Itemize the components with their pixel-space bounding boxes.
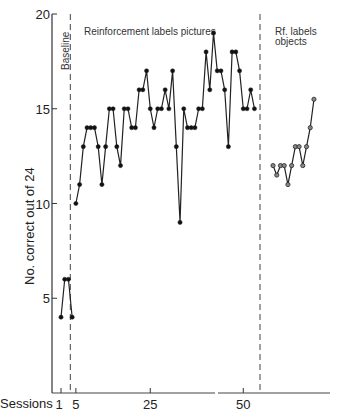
data-point-marker bbox=[286, 182, 290, 186]
x-tick-label: 50 bbox=[236, 397, 250, 412]
data-point-marker bbox=[111, 107, 115, 111]
data-point-marker bbox=[204, 50, 208, 54]
data-point-marker bbox=[66, 277, 70, 281]
data-point-marker bbox=[92, 126, 96, 130]
data-point-marker bbox=[174, 145, 178, 149]
phase-label-reinforcement-pictures: Reinforcement labels pictures bbox=[84, 26, 216, 37]
data-point-marker bbox=[182, 107, 186, 111]
data-point-marker bbox=[271, 164, 275, 168]
y-axis-title: No. correct out of 24 bbox=[22, 167, 37, 285]
data-point-marker bbox=[144, 69, 148, 73]
data-point-marker bbox=[282, 164, 286, 168]
data-point-marker bbox=[308, 126, 312, 130]
y-tick-label: 15 bbox=[36, 102, 50, 117]
data-point-marker bbox=[74, 201, 78, 205]
x-tick-label: 25 bbox=[143, 397, 157, 412]
data-point-marker bbox=[96, 145, 100, 149]
y-tick-label: 20 bbox=[36, 7, 50, 22]
data-point-marker bbox=[59, 315, 63, 319]
data-point-marker bbox=[78, 182, 82, 186]
data-point-marker bbox=[152, 126, 156, 130]
data-point-marker bbox=[115, 145, 119, 149]
data-point-marker bbox=[275, 173, 279, 177]
data-point-marker bbox=[148, 107, 152, 111]
line-chart: 5101520152550 BaselineReinforcement labe… bbox=[0, 0, 339, 417]
data-point-marker bbox=[81, 145, 85, 149]
data-point-marker bbox=[159, 107, 163, 111]
data-point-marker bbox=[252, 107, 256, 111]
x-axis-title: Sessions bbox=[0, 396, 53, 411]
data-point-marker bbox=[200, 107, 204, 111]
data-point-marker bbox=[249, 88, 253, 92]
y-tick-label: 5 bbox=[43, 291, 50, 306]
data-point-marker bbox=[193, 126, 197, 130]
data-point-marker bbox=[223, 88, 227, 92]
data-point-marker bbox=[167, 107, 171, 111]
y-tick-label: 10 bbox=[36, 197, 50, 212]
data-point-marker bbox=[211, 31, 215, 35]
data-point-marker bbox=[141, 88, 145, 92]
data-point-marker bbox=[297, 145, 301, 149]
data-point-marker bbox=[133, 126, 137, 130]
data-point-marker bbox=[312, 97, 316, 101]
series-line bbox=[76, 33, 255, 223]
data-point-marker bbox=[219, 69, 223, 73]
axes: 5101520152550 bbox=[36, 7, 330, 412]
data-point-marker bbox=[171, 69, 175, 73]
data-point-marker bbox=[178, 220, 182, 224]
x-tick-label: 1 bbox=[55, 397, 62, 412]
data-point-marker bbox=[226, 145, 230, 149]
data-point-marker bbox=[301, 164, 305, 168]
data-point-marker bbox=[290, 164, 294, 168]
data-point-marker bbox=[234, 50, 238, 54]
phase-label-rf-objects-line2: objects bbox=[275, 36, 307, 47]
data-point-marker bbox=[126, 107, 130, 111]
series-line bbox=[273, 99, 314, 184]
data-point-marker bbox=[245, 107, 249, 111]
data-point-marker bbox=[237, 69, 241, 73]
phase-labels: BaselineReinforcement labels picturesRf.… bbox=[60, 26, 317, 70]
data-series bbox=[59, 31, 316, 319]
data-point-marker bbox=[70, 315, 74, 319]
data-point-marker bbox=[163, 88, 167, 92]
data-point-marker bbox=[118, 164, 122, 168]
x-tick-label: 5 bbox=[72, 397, 79, 412]
data-point-marker bbox=[304, 145, 308, 149]
data-point-marker bbox=[100, 182, 104, 186]
data-point-marker bbox=[208, 88, 212, 92]
data-point-marker bbox=[104, 145, 108, 149]
phase-label-baseline: Baseline bbox=[60, 31, 71, 70]
